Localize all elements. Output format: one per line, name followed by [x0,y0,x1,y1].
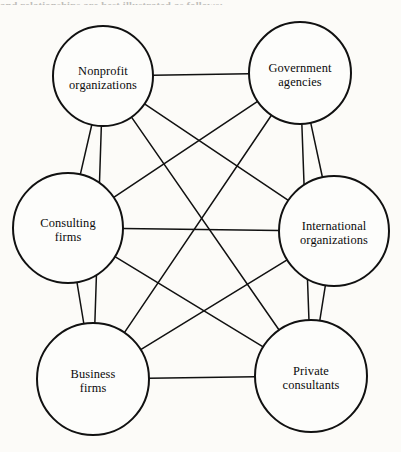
diagram-canvas: NonprofitorganizationsGovernmentagencies… [0,0,401,452]
node-consulting-firms[interactable]: Consultingfirms [13,173,123,283]
node-nonprofit-organizations[interactable]: Nonprofitorganizations [53,26,153,126]
network-diagram-figure: and relationships are best illustrated a… [0,0,401,452]
edge-government-agencies-to-business-firms [124,115,271,332]
node-private-consultants[interactable]: Privateconsultants [255,320,367,432]
edge-international-organizations-to-private-consultants [320,285,326,320]
node-label-nonprofit-organizations-line2: organizations [69,78,137,92]
node-label-nonprofit-organizations-line1: Nonprofit [78,64,128,78]
node-international-organizations[interactable]: Internationalorganizations [279,176,389,286]
edge-business-firms-to-private-consultants [149,377,255,378]
node-label-private-consultants-line2: consultants [283,378,340,392]
node-label-international-organizations-line2: organizations [300,233,368,247]
nodes-group: NonprofitorganizationsGovernmentagencies… [13,22,389,435]
edge-nonprofit-organizations-to-international-organizations [145,104,289,200]
edge-government-agencies-to-consulting-firms [114,101,258,197]
node-label-consulting-firms-line1: Consulting [40,216,95,230]
edge-government-agencies-to-international-organizations [311,123,323,177]
edge-international-organizations-to-business-firms [141,260,287,350]
edge-consulting-firms-to-business-firms [77,282,84,323]
edge-consulting-firms-to-international-organizations [123,229,279,231]
node-label-business-firms-line1: Business [71,367,116,381]
node-label-government-agencies-line2: agencies [278,75,322,89]
node-label-government-agencies-line1: Government [269,61,332,75]
edge-consulting-firms-to-private-consultants [115,257,263,347]
edge-nonprofit-organizations-to-private-consultants [131,117,279,330]
node-business-firms[interactable]: Businessfirms [37,323,149,435]
node-label-consulting-firms-line2: firms [55,230,82,244]
edge-nonprofit-organizations-to-consulting-firms [80,125,91,175]
node-label-private-consultants-line1: Private [293,364,329,378]
node-government-agencies[interactable]: Governmentagencies [249,22,351,124]
node-label-international-organizations-line1: International [302,219,367,233]
node-label-business-firms-line2: firms [80,381,107,395]
edge-nonprofit-organizations-to-government-agencies [153,74,249,75]
